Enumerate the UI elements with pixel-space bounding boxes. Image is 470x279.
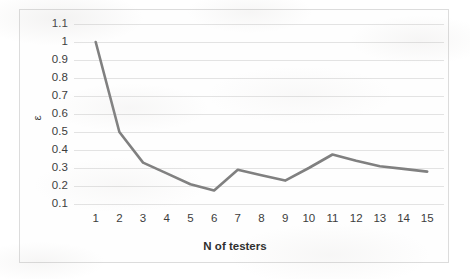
y-axis-title: ε (31, 111, 43, 125)
x-axis-tick-label: 12 (345, 213, 367, 224)
x-axis-tick-label: 10 (298, 213, 320, 224)
y-axis-tick-label: 0.9 (32, 54, 68, 65)
y-axis-tick-label: 0.7 (32, 90, 68, 101)
x-axis-tick-label: 8 (250, 213, 272, 224)
gridlines-group (74, 25, 444, 205)
y-axis-tick-label: 1.1 (32, 18, 68, 29)
x-axis-tick-label: 9 (274, 213, 296, 224)
line-chart: 1.110.90.80.70.60.50.40.30.20.1 12345678… (0, 0, 470, 279)
x-axis-tick-label: 3 (132, 213, 154, 224)
x-axis-tick-label: 2 (108, 213, 130, 224)
y-axis-tick-label: 0.1 (32, 198, 68, 209)
y-axis-tick-label: 0.5 (32, 126, 68, 137)
x-axis-tick-label: 15 (416, 213, 438, 224)
x-axis-tick-label: 5 (179, 213, 201, 224)
y-axis-tick-label: 0.2 (32, 180, 68, 191)
x-axis-title: N of testers (0, 240, 470, 252)
y-axis-tick-label: 0.3 (32, 162, 68, 173)
x-axis-tick-label: 13 (369, 213, 391, 224)
chart-canvas (0, 0, 470, 279)
x-axis-tick-label: 11 (322, 213, 344, 224)
y-axis-tick-label: 1 (32, 36, 68, 47)
x-axis-tick-label: 4 (156, 213, 178, 224)
y-axis-tick-label: 0.4 (32, 144, 68, 155)
x-axis-tick-label: 14 (393, 213, 415, 224)
y-axis-tick-label: 0.8 (32, 72, 68, 83)
x-axis-tick-label: 7 (227, 213, 249, 224)
x-axis-tick-label: 1 (85, 213, 107, 224)
x-axis-tick-label: 6 (203, 213, 225, 224)
